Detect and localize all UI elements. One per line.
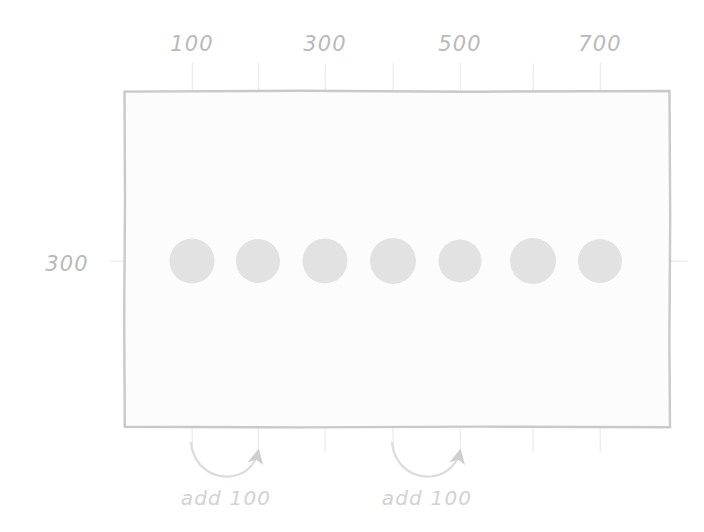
annotation-add-100-first: add 100	[181, 443, 272, 510]
x-tick-label-500: 500	[438, 32, 482, 56]
data-point	[303, 239, 348, 284]
x-tick-label-700: 700	[578, 32, 622, 56]
annotation-label-second: add 100	[382, 486, 473, 510]
annotation-arrowhead	[248, 449, 264, 466]
data-point	[236, 239, 280, 283]
data-point	[170, 239, 215, 284]
x-tick-label-300: 300	[303, 32, 347, 56]
chart-canvas: 100 300 500 700 300 add 100 add 100	[0, 0, 704, 532]
y-tick-label-300: 300	[45, 252, 89, 276]
data-point	[510, 238, 556, 284]
x-tick-label-100: 100	[170, 32, 214, 56]
x-axis-tick-labels: 100 300 500 700	[170, 32, 622, 56]
data-point	[439, 240, 482, 283]
annotation-arrow-curve	[191, 443, 257, 476]
data-point	[370, 238, 416, 284]
annotation-arrowhead	[449, 449, 465, 466]
annotation-add-100-second: add 100	[382, 443, 473, 510]
annotation-arrow-curve	[392, 443, 459, 476]
data-point	[578, 239, 622, 283]
chart-figure: 100 300 500 700 300 add 100 add 100	[0, 0, 704, 532]
y-axis-tick-labels: 300	[45, 252, 89, 276]
annotation-label-first: add 100	[181, 486, 272, 510]
